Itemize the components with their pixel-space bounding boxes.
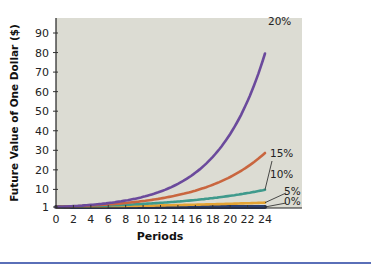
series-label: 0% [284, 195, 301, 207]
y-tick-label: 80 [35, 47, 49, 60]
x-tick-label: 18 [206, 213, 220, 226]
x-tick-label: 12 [154, 213, 168, 226]
series-label: 10% [270, 168, 293, 180]
x-axis-label: Periods [137, 230, 184, 243]
y-tick-label: 90 [35, 27, 49, 40]
divider-rule [0, 262, 371, 264]
x-tick-label: 14 [171, 213, 185, 226]
y-tick-label: 10 [35, 183, 49, 196]
x-tick-label: 4 [87, 213, 94, 226]
line-chart: 1102030405060708090024681012141618202224… [0, 0, 371, 274]
series-label: 15% [270, 147, 293, 159]
y-tick-label: 40 [35, 125, 49, 138]
plot-area [56, 18, 302, 208]
x-tick-label: 20 [223, 213, 237, 226]
x-tick-label: 24 [258, 213, 272, 226]
y-axis-label: Future Value of One Dollar ($) [8, 24, 20, 202]
y-tick-label: 1 [42, 201, 49, 214]
x-tick-label: 22 [241, 213, 255, 226]
series-label: 20% [268, 15, 291, 27]
y-tick-label: 20 [35, 164, 49, 177]
x-tick-label: 6 [105, 213, 112, 226]
x-tick-label: 16 [188, 213, 202, 226]
x-tick-label: 10 [136, 213, 150, 226]
x-tick-label: 2 [70, 213, 77, 226]
y-tick-label: 30 [35, 144, 49, 157]
y-tick-label: 60 [35, 86, 49, 99]
x-tick-label: 0 [53, 213, 60, 226]
x-tick-label: 8 [122, 213, 129, 226]
y-tick-label: 70 [35, 66, 49, 79]
y-tick-label: 50 [35, 105, 49, 118]
